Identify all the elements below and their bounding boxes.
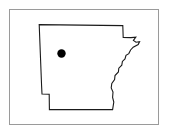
location-dot-marker[interactable] — [57, 49, 65, 57]
arkansas-state-outline — [39, 25, 139, 110]
figure-root — [0, 0, 172, 137]
map-canvas — [0, 0, 172, 137]
